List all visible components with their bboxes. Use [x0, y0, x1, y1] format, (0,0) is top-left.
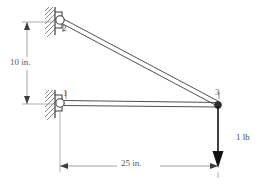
dimension-label-vertical: 10 in. — [10, 58, 31, 67]
member-2-3 — [61, 18, 219, 106]
joint-label-3: 3 — [215, 88, 220, 97]
truss-diagram: 2 1 3 10 in. 25 in. 1 lb — [0, 0, 276, 189]
member-1-3 — [64, 101, 219, 108]
load-label: 1 lb — [236, 133, 250, 142]
dimension-label-horizontal: 25 in. — [119, 159, 144, 168]
joint-label-2: 2 — [62, 24, 67, 33]
dimension-horizontal — [60, 112, 218, 178]
load-arrow — [213, 106, 224, 168]
joint-pin-1 — [56, 99, 64, 107]
joint-label-1: 1 — [63, 89, 68, 98]
